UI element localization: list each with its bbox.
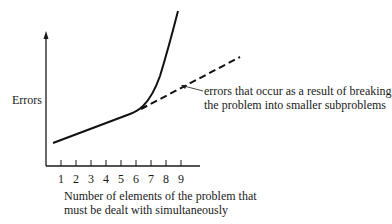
x-tick-label: 4 [100,172,112,187]
y-axis-label: Errors [12,93,42,107]
x-ticks [61,160,181,166]
y-axis-arrow-icon [44,31,49,39]
x-tick-label: 6 [130,172,142,187]
x-tick-label: 5 [115,172,127,187]
x-tick-label: 1 [55,172,67,187]
x-tick-label: 3 [85,172,97,187]
x-tick-label: 9 [175,172,187,187]
annotation-line2: the problem into smaller subproblems [204,98,386,112]
x-tick-label: 7 [145,172,157,187]
x-tick-label: 8 [160,172,172,187]
annotation-line1: errors that occur as a result of breakin… [204,84,392,98]
x-axis-label-line1: Number of elements of the problem that [64,189,257,203]
total-errors-curve [53,11,178,143]
x-tick-label: 2 [70,172,82,187]
annotation-arrow-line [184,86,203,91]
x-axis-label-line2: must be dealt with simultaneously [64,203,228,217]
